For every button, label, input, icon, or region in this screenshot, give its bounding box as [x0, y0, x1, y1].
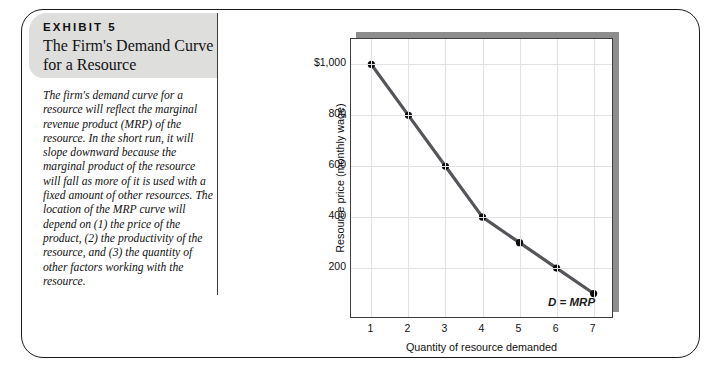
- gridline-vertical: [408, 39, 409, 317]
- chart-container: 200400600800$1,000 1234567 Quantity of r…: [296, 22, 696, 352]
- gridline-vertical: [483, 39, 484, 317]
- x-tick-label: 5: [509, 322, 529, 334]
- x-tick-label: 6: [546, 322, 566, 334]
- x-tick-label: 3: [434, 322, 454, 334]
- exhibit-title: The Firm's Demand Curve for a Resource: [43, 37, 218, 74]
- exhibit-caption: The firm's demand curve for a resource w…: [43, 89, 213, 289]
- gridline-horizontal: [351, 115, 612, 116]
- x-axis-title: Quantity of resource demanded: [350, 341, 613, 353]
- x-tick-label: 1: [360, 322, 380, 334]
- exhibit-text-column: EXHIBIT 5 The Firm's Demand Curve for a …: [29, 13, 218, 296]
- gridline-vertical: [445, 39, 446, 317]
- x-tick-label: 2: [397, 322, 417, 334]
- gridline-vertical: [371, 39, 372, 317]
- gridline-vertical: [520, 39, 521, 317]
- gridline-horizontal: [351, 64, 612, 65]
- gridline-horizontal: [351, 217, 612, 218]
- curve-label-d-mrp: D = MRP: [548, 296, 595, 308]
- gridline-vertical: [594, 39, 595, 317]
- column-divider: [217, 13, 218, 295]
- x-tick-label: 4: [472, 322, 492, 334]
- x-axis-ticks: 1234567: [350, 322, 613, 340]
- exhibit-figure-page: EXHIBIT 5 The Firm's Demand Curve for a …: [0, 0, 727, 381]
- gridline-horizontal: [351, 166, 612, 167]
- demand-curve-series: [351, 39, 613, 318]
- gridline-horizontal: [351, 268, 612, 269]
- x-tick-label: 7: [583, 322, 603, 334]
- exhibit-kicker: EXHIBIT 5: [43, 21, 117, 33]
- gridline-vertical: [557, 39, 558, 317]
- plot-area: [350, 38, 613, 318]
- y-axis-title: Resource price (monthly wage): [334, 38, 346, 318]
